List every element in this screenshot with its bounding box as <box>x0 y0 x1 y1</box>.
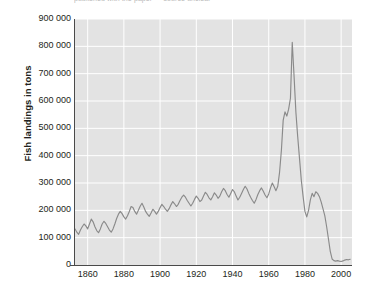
y-tick-label: 800 000 <box>11 40 71 50</box>
y-tick-label: 400 000 <box>11 150 71 160</box>
y-tick-label: 200 000 <box>11 204 71 214</box>
y-tick-label: 100 000 <box>11 232 71 242</box>
x-tick-label: 2000 <box>318 269 364 279</box>
y-axis-line <box>74 19 75 266</box>
y-tick-label: 900 000 <box>11 13 71 23</box>
y-tick-label: 700 000 <box>11 68 71 78</box>
x-axis-line <box>70 265 352 266</box>
y-gridlines <box>75 19 352 238</box>
line-chart-svg <box>75 19 352 265</box>
y-tick-label: 600 000 <box>11 95 71 105</box>
chart-figure: published with the paper — source unclea… <box>0 0 365 295</box>
y-tick-label: 0 <box>11 259 71 269</box>
data-line-fish-landings <box>75 42 350 261</box>
plot-area <box>75 19 352 265</box>
y-tick-label: 500 000 <box>11 122 71 132</box>
x-gridlines <box>88 19 341 265</box>
y-tick-label: 300 000 <box>11 177 71 187</box>
caption-fragment: published with the paper — source unclea… <box>74 0 304 3</box>
